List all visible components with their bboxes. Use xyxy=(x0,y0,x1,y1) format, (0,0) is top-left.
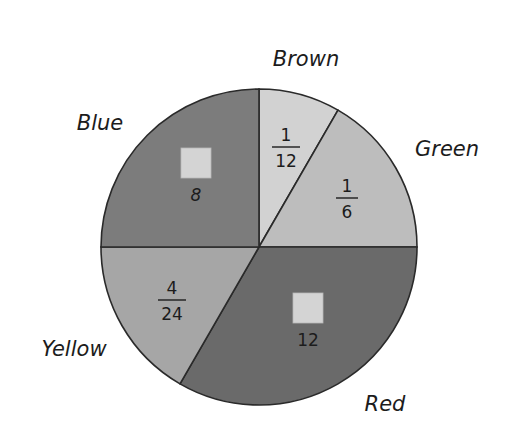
slice-label-yellow: Yellow xyxy=(41,337,107,361)
denominator: 8 xyxy=(191,185,202,205)
numerator: 1 xyxy=(281,125,292,145)
answer-box-red[interactable] xyxy=(293,293,323,323)
answer-box-blue[interactable] xyxy=(181,148,211,178)
slice-label-brown: Brown xyxy=(273,47,339,71)
slice-label-red: Red xyxy=(365,392,407,416)
pie-slices xyxy=(101,89,417,405)
denominator: 6 xyxy=(342,202,353,222)
pie-chart: 11216124248 BrownGreenRedYellowBlue xyxy=(0,0,516,445)
denominator: 12 xyxy=(297,330,319,350)
pie-slice-blue xyxy=(101,89,259,247)
slice-label-green: Green xyxy=(415,137,479,161)
numerator: 1 xyxy=(342,176,353,196)
denominator: 24 xyxy=(161,304,183,324)
numerator: 4 xyxy=(167,278,178,298)
denominator: 12 xyxy=(275,151,297,171)
fraction-red: 12 xyxy=(293,293,323,350)
slice-label-blue: Blue xyxy=(77,111,123,135)
